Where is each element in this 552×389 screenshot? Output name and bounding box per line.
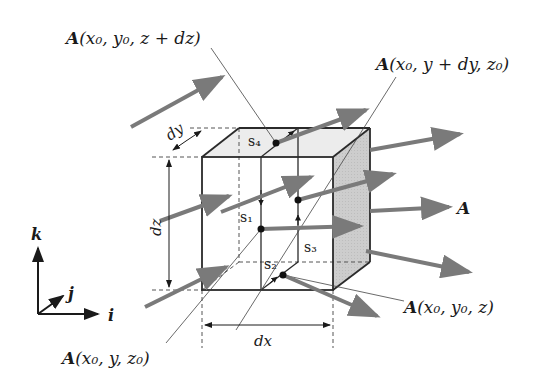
- label-a-bottom-right: A(x₀, y₀, z): [402, 297, 494, 317]
- axes-triad: [38, 248, 98, 314]
- label-dz: dz: [147, 218, 165, 236]
- label-s3: s₃: [304, 239, 317, 255]
- axis-label-j: j: [65, 284, 74, 303]
- label-s1: s₁: [240, 209, 253, 225]
- label-dy: dy: [162, 119, 188, 144]
- label-a-right: A(x₀, y + dy, z₀): [374, 54, 509, 74]
- circulation-arrow-s2: [270, 277, 277, 283]
- label-dx: dx: [254, 332, 273, 350]
- axis-label-i: i: [108, 306, 114, 325]
- label-s2: s₂: [264, 256, 277, 272]
- vector-field-diagram: A(x₀, y₀, z + dz) A(x₀, y + dy, z₀) A(x₀…: [0, 0, 552, 389]
- axis-label-k: k: [31, 225, 42, 244]
- label-a-field: A: [455, 198, 470, 218]
- label-s4: s₄: [248, 133, 261, 149]
- label-a-top: A(x₀, y₀, z + dz): [64, 28, 201, 48]
- label-a-bottom-left: A(x₀, y, z₀): [60, 348, 150, 368]
